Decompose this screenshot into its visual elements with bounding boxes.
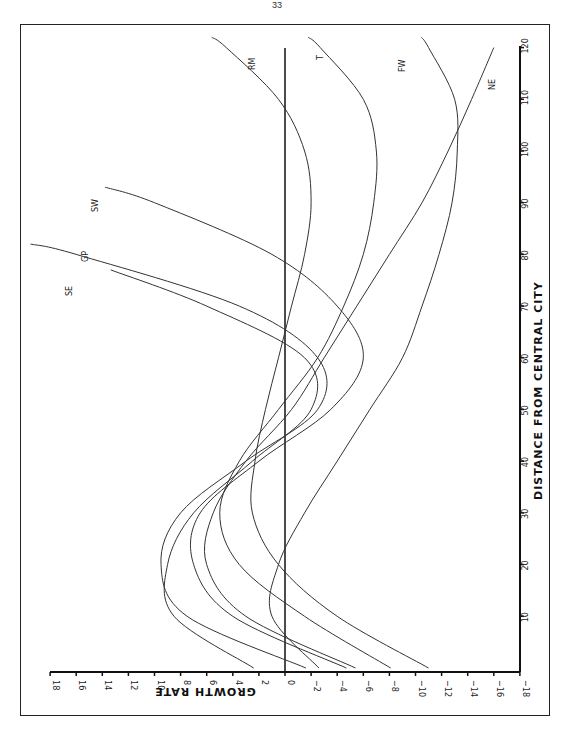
growth-rate-chart: 181614121086420−2−4−6−8−10−12−14−16−18 1… bbox=[0, 0, 572, 734]
y-tick-label: −8 bbox=[390, 680, 400, 692]
growth-rate-ticks: 181614121086420−2−4−6−8−10−12−14−16−18 bbox=[50, 672, 531, 697]
x-tick-label: 60 bbox=[520, 353, 530, 363]
series-label-sw: SW bbox=[91, 199, 100, 212]
series-label-gp: GP bbox=[81, 251, 90, 262]
series-label-rm: RM bbox=[248, 57, 257, 70]
y-tick-label: −4 bbox=[338, 680, 348, 692]
y-tick-label: 6 bbox=[208, 680, 218, 685]
y-tick-label: 0 bbox=[286, 680, 296, 685]
curve-se bbox=[111, 270, 318, 668]
y-tick-label: −6 bbox=[364, 680, 374, 692]
x-tick-label: 40 bbox=[520, 457, 530, 467]
y-tick-label: −14 bbox=[469, 680, 479, 697]
x-tick-label: 30 bbox=[520, 509, 530, 519]
y-tick-label: −2 bbox=[312, 680, 322, 692]
y-tick-label: 4 bbox=[234, 680, 244, 685]
x-tick-label: 110 bbox=[520, 90, 530, 105]
x-tick-label: 50 bbox=[520, 405, 530, 415]
series-curves bbox=[31, 37, 494, 668]
y-tick-label: −12 bbox=[443, 680, 453, 697]
xlabel: DISTANCE FROM CENTRAL CITY bbox=[532, 281, 545, 500]
series-label-se: SE bbox=[65, 286, 74, 296]
x-tick-label: 70 bbox=[520, 302, 530, 312]
x-tick-label: 80 bbox=[520, 250, 530, 260]
distance-ticks: 102030405060708090100110120 bbox=[520, 38, 530, 622]
curve-rm bbox=[212, 37, 429, 668]
y-tick-label: 8 bbox=[182, 680, 192, 685]
curve-ne bbox=[204, 48, 493, 668]
curve-sw bbox=[105, 187, 363, 668]
ylabel: GROWTH RATE bbox=[154, 685, 256, 698]
y-tick-label: 14 bbox=[103, 680, 113, 690]
curve-gp bbox=[31, 244, 327, 668]
y-tick-label: −10 bbox=[417, 680, 427, 697]
x-tick-label: 10 bbox=[520, 612, 530, 622]
series-label-ne: NE bbox=[488, 79, 497, 90]
series-label-t: T bbox=[316, 55, 325, 61]
y-tick-label: −16 bbox=[495, 680, 505, 697]
y-tick-label: −18 bbox=[521, 680, 531, 697]
x-tick-label: 20 bbox=[520, 560, 530, 570]
x-tick-label: 100 bbox=[520, 142, 530, 157]
y-tick-label: 2 bbox=[260, 680, 270, 685]
curve-t bbox=[220, 37, 391, 668]
x-tick-label: 90 bbox=[520, 198, 530, 208]
y-tick-label: 16 bbox=[77, 680, 87, 690]
series-label-fw: FW bbox=[398, 59, 407, 72]
x-tick-label: 120 bbox=[520, 38, 530, 53]
y-tick-label: 12 bbox=[129, 680, 139, 690]
y-tick-label: 18 bbox=[51, 680, 61, 690]
